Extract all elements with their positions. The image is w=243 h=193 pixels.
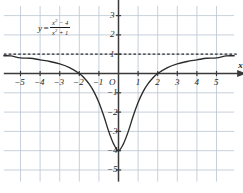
x-tick-label-neg3: −3	[54, 78, 65, 87]
x-tick-label-neg5: −5	[14, 78, 25, 87]
equation-denominator: x2 + 1	[50, 27, 70, 36]
origin-label: O	[109, 78, 116, 87]
equation-fraction: x2 − 4 x2 + 1	[50, 19, 70, 36]
x-tick-label-3: 3	[175, 78, 180, 87]
y-tick-label-1: 1	[110, 50, 115, 59]
x-tick-label-neg2: −2	[73, 78, 84, 87]
equation-equals: =	[43, 23, 49, 33]
y-tick-label-neg5: −5	[107, 165, 118, 174]
x-axis-label: x	[238, 61, 243, 70]
y-tick-label-2: 2	[110, 30, 115, 39]
y-tick-label-neg1: −1	[107, 88, 118, 97]
equation-numerator: x2 − 4	[50, 19, 70, 27]
x-tick-label-5: 5	[214, 78, 219, 87]
x-tick-label-neg1: −1	[93, 78, 104, 87]
y-tick-label-3: 3	[110, 11, 115, 20]
equation-label: y = x2 − 4 x2 + 1	[38, 19, 70, 36]
x-tick-label-1: 1	[136, 78, 141, 87]
coordinate-plane	[0, 0, 243, 193]
graph-figure: y = x2 − 4 x2 + 1 −5−4−3−2−112345321−1−2…	[0, 0, 243, 193]
y-tick-label-neg2: −2	[107, 108, 118, 117]
equation-lhs: y	[38, 23, 42, 33]
y-tick-label-neg4: −4	[107, 146, 118, 155]
x-tick-label-4: 4	[195, 78, 200, 87]
x-tick-label-neg4: −4	[34, 78, 45, 87]
x-tick-label-2: 2	[155, 78, 160, 87]
y-tick-label-neg3: −3	[107, 127, 118, 136]
